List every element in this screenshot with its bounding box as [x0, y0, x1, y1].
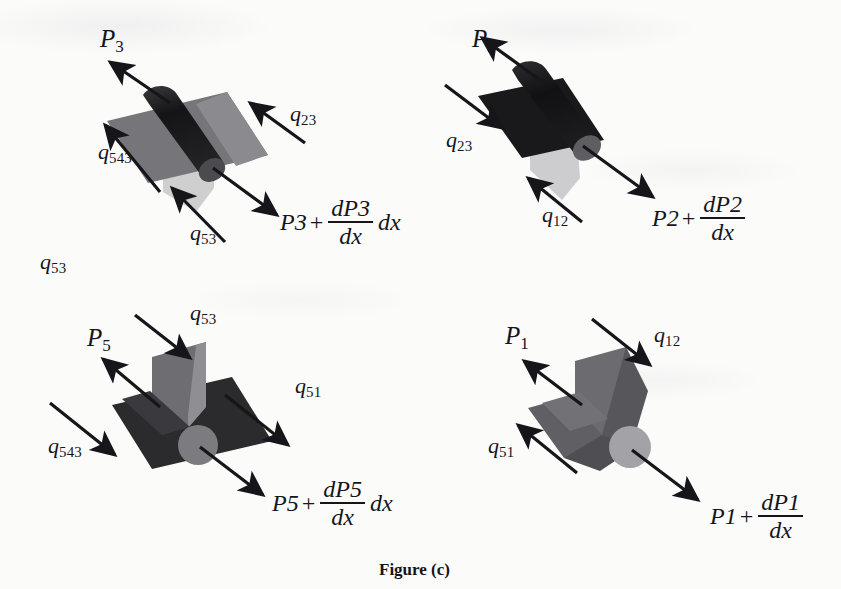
label-pressure-out-1: P1 + dP1 dx	[710, 490, 808, 542]
stray-label-q53: q53	[40, 251, 66, 276]
arrow-pressure-out-2	[583, 146, 653, 197]
arrow-pressure-out-3	[213, 168, 277, 215]
arrow-pressure-out-5	[200, 447, 263, 495]
label-pressure-in-2: P2	[472, 26, 496, 55]
label-flux-q51: q51	[488, 435, 514, 460]
figure-page: P3 q23 q543 q53 P3 + dP3 dx dx q53	[0, 0, 841, 589]
label-flux-q543: q543	[48, 435, 82, 460]
arrow-flux-q53	[135, 315, 190, 358]
label-pressure-out-3: P3 + dP3 dx dx	[280, 196, 401, 248]
label-flux-q23: q23	[290, 103, 316, 128]
label-pressure-out-2: P2 + dP2 dx	[652, 192, 750, 244]
label-pressure-in-3: P3	[100, 26, 124, 55]
arrow-pressure-out-1	[632, 450, 698, 500]
label-flux-q543: q543	[98, 141, 132, 166]
arrow-pressure-in-1	[524, 361, 582, 405]
node-sphere	[178, 425, 218, 465]
figure-caption: Figure (c)	[379, 560, 450, 580]
label-pressure-out-5: P5 + dP5 dx dx	[272, 477, 393, 529]
panel-p2: P2 q23 q12 P2 + dP2 dx	[430, 0, 841, 290]
node-sphere	[609, 426, 651, 468]
label-flux-q12: q12	[542, 204, 568, 229]
label-flux-q53: q53	[190, 222, 216, 247]
label-flux-q53: q53	[190, 302, 216, 327]
label-pressure-in-5: P5	[87, 325, 111, 354]
arrow-pressure-in-3	[110, 62, 170, 103]
label-flux-q23: q23	[446, 129, 472, 154]
label-flux-q12: q12	[654, 324, 680, 349]
label-flux-q51: q51	[295, 375, 321, 400]
panel-p1: P1 q12 q51 P1 + dP1 dx	[430, 295, 841, 560]
panel-p5: P5 q53 q51 q543 P5 + dP5 dx dx	[0, 295, 430, 560]
label-pressure-in-1: P1	[505, 323, 529, 352]
panel-p3: P3 q23 q543 q53 P3 + dP3 dx dx	[0, 0, 420, 290]
